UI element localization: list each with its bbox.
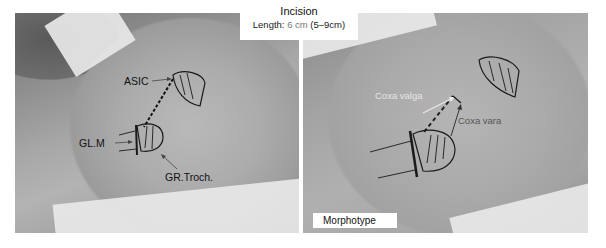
photo-panel-right: Coxa valga Coxa vara <box>303 13 588 233</box>
label-coxa-valga: Coxa valga <box>375 90 423 101</box>
label-greater-trochanter: GR.Troch. <box>165 171 213 183</box>
length-value: 6 cm <box>287 19 308 30</box>
incision-length: Length: 6 cm (5–9cm) <box>240 18 358 31</box>
length-label: Length: <box>253 19 285 30</box>
surgical-markings-left <box>15 13 299 233</box>
length-range: (5–9cm) <box>310 19 345 30</box>
label-asic: ASIC <box>124 75 149 87</box>
incision-heading: Incision <box>240 5 358 18</box>
panel-divider <box>300 40 302 233</box>
label-gluteus-medius: GL.M <box>79 137 105 149</box>
surgical-markings-right <box>303 13 588 233</box>
label-coxa-vara: Coxa vara <box>458 115 501 126</box>
incision-title-box: Incision Length: 6 cm (5–9cm) <box>240 0 358 40</box>
morphotype-caption: Morphotype <box>313 213 397 228</box>
photo-panel-left: ASIC GL.M GR.Troch. <box>15 13 299 233</box>
